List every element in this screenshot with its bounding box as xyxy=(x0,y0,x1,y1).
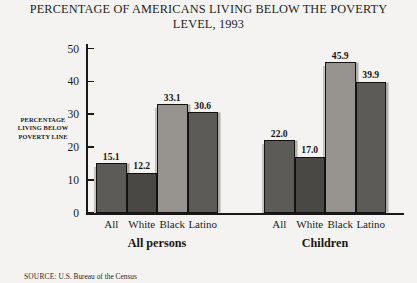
bar[interactable]: 17.0 xyxy=(295,157,326,213)
bar-slot: 22.0All xyxy=(264,49,295,213)
source-label: SOURCE: xyxy=(24,272,57,281)
bar[interactable]: 12.2 xyxy=(127,173,158,213)
y-axis-tick-label: 10 xyxy=(67,173,79,186)
bar[interactable]: 39.9 xyxy=(356,82,387,213)
bar-group: 22.0All17.0White45.9Black39.9LatinoChild… xyxy=(264,49,386,213)
x-axis-category-label: Latino xyxy=(356,218,385,230)
source-note: SOURCE: U.S. Bureau of the Census xyxy=(24,272,404,283)
bar-group-label: All persons xyxy=(128,236,187,251)
bar[interactable]: 45.9 xyxy=(325,62,356,213)
bar-slot: 12.2White xyxy=(127,49,158,213)
y-axis-tick-label: 30 xyxy=(67,108,79,121)
bar-slot: 30.6Latino xyxy=(188,49,219,213)
chart-title: PERCENTAGE OF AMERICANS LIVING BELOW THE… xyxy=(18,2,399,31)
x-axis-category-label: White xyxy=(296,218,323,230)
plot-area: 01020304050 15.1All12.2White33.1Black30.… xyxy=(86,48,404,215)
bar-value-label: 39.9 xyxy=(362,69,379,80)
y-axis-tick-label: 0 xyxy=(73,206,79,219)
bar-value-label: 30.6 xyxy=(194,100,211,111)
bar-value-label: 15.1 xyxy=(103,151,120,162)
bar-value-label: 45.9 xyxy=(332,50,349,61)
x-axis-category-label: Black xyxy=(159,218,185,230)
bar-slot: 45.9Black xyxy=(325,49,356,213)
bar-group: 15.1All12.2White33.1Black30.6LatinoAll p… xyxy=(96,49,218,213)
bar[interactable]: 33.1 xyxy=(157,104,188,213)
chart-title-line-1: PERCENTAGE OF AMERICANS LIVING BELOW THE… xyxy=(18,2,399,17)
x-axis-category-label: Latino xyxy=(188,218,217,230)
source-text: U.S. Bureau of the Census xyxy=(58,272,136,281)
y-axis-title-line-2: LIVING BELOW xyxy=(6,124,80,132)
chart-title-line-2: LEVEL, 1993 xyxy=(18,17,399,32)
x-axis-category-label: Black xyxy=(327,218,353,230)
bar-value-label: 22.0 xyxy=(271,128,288,139)
bar-value-label: 12.2 xyxy=(133,160,150,171)
bars-layer: 15.1All12.2White33.1Black30.6LatinoAll p… xyxy=(86,49,404,213)
bar-slot: 17.0White xyxy=(295,49,326,213)
x-axis-category-label: All xyxy=(104,218,118,230)
bar-group-label: Children xyxy=(302,236,349,251)
bar-slot: 33.1Black xyxy=(157,49,188,213)
x-axis-baseline xyxy=(86,213,404,215)
poverty-level-bar-chart: PERCENTAGE OF AMERICANS LIVING BELOW THE… xyxy=(0,0,417,283)
bar-value-label: 33.1 xyxy=(164,92,181,103)
bar-slot: 39.9Latino xyxy=(356,49,387,213)
bar[interactable]: 15.1 xyxy=(96,163,127,213)
bar[interactable]: 30.6 xyxy=(188,112,219,212)
y-axis-tick-label: 50 xyxy=(67,42,79,55)
x-axis-category-label: All xyxy=(272,218,286,230)
bar-value-label: 17.0 xyxy=(301,144,318,155)
x-axis-category-label: White xyxy=(128,218,155,230)
y-axis-tick-label: 40 xyxy=(67,75,79,88)
y-axis-tick-label: 20 xyxy=(67,141,79,154)
bar-slot: 15.1All xyxy=(96,49,127,213)
bar[interactable]: 22.0 xyxy=(264,140,295,212)
